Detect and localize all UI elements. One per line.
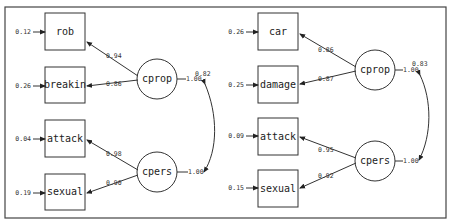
indicator-label: breakin bbox=[44, 79, 86, 90]
error-variance: 0.15 bbox=[228, 184, 244, 192]
loading-value: 0.94 bbox=[106, 52, 122, 60]
latent-label: cprop bbox=[142, 73, 172, 84]
error-variance: 0.26 bbox=[15, 82, 31, 90]
error-variance: 0.25 bbox=[228, 81, 244, 89]
indicator-label: sexual bbox=[260, 183, 296, 194]
latent-cpers: cpers 1.00 bbox=[355, 141, 419, 181]
indicator-label: attack bbox=[260, 131, 296, 142]
latent-label: cpers bbox=[142, 166, 172, 177]
indicator-rob: rob 0.12 bbox=[15, 13, 85, 50]
sem-diagram: rob 0.12 breakin 0.26 attack 0.04 sexual… bbox=[0, 0, 450, 224]
indicator-label: sexual bbox=[47, 186, 83, 197]
latent-label: cprop bbox=[360, 64, 390, 75]
left-model: rob 0.12 breakin 0.26 attack 0.04 sexual… bbox=[15, 13, 214, 210]
latent-cprop: cprop 1.00 bbox=[355, 50, 419, 90]
correlation-value: 0.83 bbox=[412, 60, 428, 68]
indicator-attack: attack 0.09 bbox=[228, 118, 298, 155]
indicator-label: car bbox=[269, 26, 287, 37]
right-model: car 0.26 damage 0.25 attack 0.09 sexual … bbox=[228, 13, 429, 207]
correlation-arc bbox=[419, 75, 429, 160]
error-variance: 0.26 bbox=[228, 28, 244, 36]
indicator-damage: damage 0.25 bbox=[228, 66, 298, 103]
latent-variance: 1.00 bbox=[188, 168, 204, 176]
error-variance: 0.04 bbox=[15, 135, 31, 143]
indicator-label: attack bbox=[47, 133, 83, 144]
latent-cpers: cpers 1.00 bbox=[137, 152, 204, 192]
indicator-label: damage bbox=[260, 79, 296, 90]
indicator-attack: attack 0.04 bbox=[15, 120, 85, 157]
loading-value: 0.87 bbox=[318, 75, 334, 83]
loading-value: 0.90 bbox=[106, 179, 122, 187]
indicator-sexual: sexual 0.15 bbox=[228, 170, 298, 207]
error-variance: 0.09 bbox=[228, 132, 244, 140]
indicator-breakin: breakin 0.26 bbox=[15, 67, 86, 103]
correlation-arc bbox=[204, 84, 215, 172]
loading-value: 0.98 bbox=[106, 150, 122, 158]
loading-value: 0.92 bbox=[318, 172, 334, 180]
latent-label: cpers bbox=[360, 155, 390, 166]
loading-value: 0.86 bbox=[106, 80, 122, 88]
indicator-car: car 0.26 bbox=[228, 13, 298, 50]
latent-variance: 1.00 bbox=[403, 157, 419, 165]
indicator-sexual: sexual 0.19 bbox=[15, 174, 85, 210]
error-variance: 0.12 bbox=[15, 28, 31, 36]
error-variance: 0.19 bbox=[15, 189, 31, 197]
loading-value: 0.86 bbox=[318, 46, 334, 54]
correlation-value: 0.82 bbox=[195, 70, 211, 78]
latent-cprop: cprop 1.00 bbox=[137, 59, 202, 99]
indicator-label: rob bbox=[56, 26, 74, 37]
loading-value: 0.95 bbox=[318, 146, 334, 154]
